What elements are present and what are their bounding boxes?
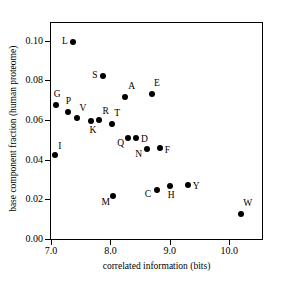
y-tick-mark <box>45 80 51 81</box>
data-point-label: A <box>128 82 135 92</box>
data-point-label: L <box>62 37 68 47</box>
y-tick-label: 0.04 <box>26 155 44 165</box>
data-point <box>154 187 160 193</box>
data-point-label: D <box>141 135 148 145</box>
data-point-label: P <box>66 97 71 107</box>
data-point-label: N <box>135 150 142 160</box>
data-point-label: Y <box>193 182 200 192</box>
data-point <box>167 183 173 189</box>
y-tick-label: 0.08 <box>26 75 44 85</box>
y-tick-label: 0.06 <box>26 115 44 125</box>
y-tick-label: 0.10 <box>26 36 44 46</box>
scatter-chart-figure: 0.000.020.040.060.080.10 7.08.09.010.0 L… <box>0 0 282 286</box>
data-point <box>96 117 102 123</box>
data-point <box>185 182 191 188</box>
x-tick-label: 9.0 <box>164 246 177 256</box>
data-point <box>53 102 59 108</box>
data-point-label: F <box>165 146 170 156</box>
x-tick-label: 7.0 <box>45 246 58 256</box>
data-point-label: V <box>80 104 87 114</box>
y-tick-label: 0.02 <box>26 194 44 204</box>
data-point-label: T <box>114 109 120 119</box>
data-point <box>74 115 80 121</box>
data-point <box>238 211 244 217</box>
data-point-label: H <box>168 191 175 201</box>
data-point-label: M <box>101 198 109 208</box>
data-point <box>109 121 115 127</box>
x-tick-label: 8.0 <box>104 246 117 256</box>
y-tick-mark <box>45 41 51 42</box>
data-point <box>122 94 128 100</box>
data-point <box>149 91 155 97</box>
data-point-label: E <box>154 79 160 89</box>
data-point-label: R <box>103 107 109 117</box>
data-point <box>125 135 131 141</box>
data-point <box>110 193 116 199</box>
data-point <box>52 152 58 158</box>
y-tick-mark <box>45 160 51 161</box>
data-point-label: W <box>243 199 252 209</box>
data-point-label: G <box>54 90 61 100</box>
y-tick-label: 0.00 <box>26 234 44 244</box>
data-point-label: I <box>58 142 61 152</box>
data-point <box>157 145 163 151</box>
data-point-label: C <box>145 190 151 200</box>
data-point <box>133 135 139 141</box>
plot-area: 0.000.020.040.060.080.10 7.08.09.010.0 L… <box>50 22 263 240</box>
data-point <box>65 109 71 115</box>
x-tick-label: 10.0 <box>221 246 239 256</box>
y-tick-mark <box>45 120 51 121</box>
data-point <box>88 118 94 124</box>
y-tick-mark <box>45 199 51 200</box>
x-axis-title: correlated information (bits) <box>50 262 263 272</box>
y-axis-title: base component fraction (human proteome) <box>9 19 19 239</box>
data-point-label: Q <box>117 139 124 149</box>
data-point <box>144 146 150 152</box>
data-point <box>70 39 76 45</box>
data-point <box>100 73 106 79</box>
data-point-label: S <box>92 71 97 81</box>
data-point-label: K <box>89 126 96 136</box>
